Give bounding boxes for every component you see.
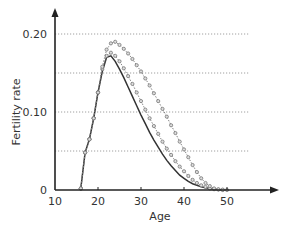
data-point bbox=[157, 99, 160, 102]
fertility-chart: 102030405000.100.20 Age Fertility rate bbox=[0, 0, 284, 233]
data-point bbox=[114, 40, 117, 43]
x-tick-label: 10 bbox=[48, 195, 62, 208]
data-point bbox=[139, 99, 142, 102]
data-point bbox=[148, 84, 151, 87]
data-point bbox=[182, 170, 185, 173]
data-point bbox=[122, 67, 125, 70]
x-tick-label: 50 bbox=[220, 195, 234, 208]
y-tick-label: 0.20 bbox=[23, 28, 48, 41]
x-tick-label: 30 bbox=[134, 195, 148, 208]
data-point bbox=[178, 165, 181, 168]
data-point bbox=[195, 181, 198, 184]
data-point bbox=[127, 75, 130, 78]
data-point bbox=[144, 108, 147, 111]
data-point bbox=[182, 148, 185, 151]
data-point bbox=[114, 54, 117, 57]
data-point bbox=[195, 170, 198, 173]
data-point bbox=[161, 107, 164, 110]
series-dotted-2 bbox=[79, 40, 228, 191]
y-axis-label: Fertility rate bbox=[10, 78, 23, 145]
data-point bbox=[101, 65, 104, 68]
data-point bbox=[191, 163, 194, 166]
data-point bbox=[187, 174, 190, 177]
data-point bbox=[157, 132, 160, 135]
data-point bbox=[152, 124, 155, 127]
data-point bbox=[118, 60, 121, 63]
data-point bbox=[208, 185, 211, 188]
data-series bbox=[79, 40, 228, 191]
data-point bbox=[204, 185, 207, 188]
y-axis-arrow-icon bbox=[52, 8, 59, 17]
data-point bbox=[96, 91, 99, 94]
data-point bbox=[161, 140, 164, 143]
axes bbox=[52, 8, 280, 194]
x-tick-label: 40 bbox=[177, 195, 191, 208]
data-point bbox=[84, 151, 87, 154]
data-point bbox=[122, 47, 125, 50]
data-point bbox=[170, 153, 173, 156]
data-point bbox=[88, 138, 91, 141]
x-axis-arrow-icon bbox=[270, 187, 279, 194]
data-point bbox=[148, 117, 151, 120]
data-point bbox=[109, 51, 112, 54]
data-point bbox=[135, 64, 138, 67]
y-tick-label: 0.10 bbox=[23, 106, 48, 119]
data-point bbox=[170, 124, 173, 127]
data-point bbox=[200, 184, 203, 187]
data-point bbox=[165, 147, 168, 150]
data-point bbox=[204, 181, 207, 184]
data-point bbox=[118, 43, 121, 46]
data-point bbox=[92, 117, 95, 120]
data-point bbox=[131, 82, 134, 85]
data-point bbox=[127, 52, 130, 55]
data-point bbox=[200, 177, 203, 180]
data-point bbox=[135, 91, 138, 94]
data-point bbox=[191, 178, 194, 181]
data-point bbox=[165, 115, 168, 118]
data-point bbox=[178, 140, 181, 143]
x-tick-label: 20 bbox=[91, 195, 105, 208]
data-point bbox=[131, 57, 134, 60]
series-line bbox=[81, 42, 227, 190]
data-point bbox=[105, 48, 108, 51]
data-point bbox=[152, 92, 155, 95]
data-point bbox=[139, 70, 142, 73]
x-axis-label: Age bbox=[149, 210, 171, 223]
data-point bbox=[187, 156, 190, 159]
data-point bbox=[174, 160, 177, 163]
data-point bbox=[109, 42, 112, 45]
data-point bbox=[174, 131, 177, 134]
data-point bbox=[144, 77, 147, 80]
y-tick-label: 0 bbox=[40, 184, 47, 197]
